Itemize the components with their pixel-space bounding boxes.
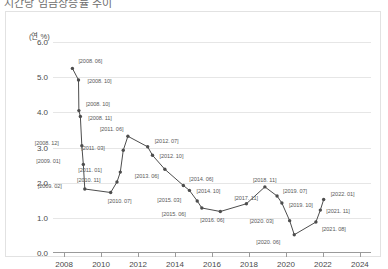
data-point-marker[interactable]: [322, 198, 325, 201]
data-point-label: [2020. 03]: [250, 219, 274, 225]
data-point-marker[interactable]: [263, 185, 266, 188]
data-point-label: [2013. 06]: [135, 174, 159, 180]
data-point-label: [2009. 02]: [38, 184, 62, 190]
x-axis-tick: [175, 253, 176, 257]
data-point-marker[interactable]: [200, 206, 203, 209]
data-point-label: [2015. 06]: [162, 212, 186, 218]
data-point-marker[interactable]: [115, 180, 118, 183]
data-point-marker[interactable]: [288, 219, 291, 222]
document-title: 시간당 임금상승률 추이: [4, 0, 113, 10]
y-axis-tick-label: 5.0: [37, 73, 48, 82]
data-point-label: [2008. 10]: [86, 102, 110, 108]
data-point-marker[interactable]: [119, 170, 122, 173]
x-axis-tick-label: 2024: [351, 260, 369, 269]
data-point-label: [2016. 06]: [200, 218, 224, 224]
x-axis-tick: [138, 253, 139, 257]
data-point-marker[interactable]: [293, 233, 296, 236]
y-axis-tick-label: 1.0: [37, 213, 48, 222]
x-axis-tick-label: 2012: [129, 260, 147, 269]
data-point-label: [2020. 06]: [256, 240, 280, 246]
data-point-marker[interactable]: [314, 220, 317, 223]
data-point-marker[interactable]: [163, 168, 166, 171]
data-point-label: [2014. 10]: [196, 189, 220, 195]
chart-plot-area: 0.01.02.03.04.05.06.0 200820102012201420…: [53, 42, 371, 253]
y-axis-tick-label: 6.0: [37, 38, 48, 47]
y-axis-tick-label: 4.0: [37, 108, 48, 117]
data-point-label: [2010. 11]: [77, 178, 100, 184]
data-point-marker[interactable]: [77, 109, 80, 112]
data-point-marker[interactable]: [109, 191, 112, 194]
x-axis-tick: [286, 253, 287, 257]
data-point-label: [2015. 03]: [157, 198, 181, 204]
x-axis-tick: [101, 253, 102, 257]
data-point-marker[interactable]: [71, 67, 74, 70]
data-point-marker[interactable]: [196, 199, 199, 202]
data-point-label: [2012. 07]: [155, 139, 179, 145]
x-axis-tick: [64, 253, 65, 257]
data-point-marker[interactable]: [83, 187, 86, 190]
data-point-marker[interactable]: [319, 208, 322, 211]
data-point-marker[interactable]: [122, 149, 125, 152]
series-line: [72, 68, 323, 234]
data-point-marker[interactable]: [219, 210, 222, 213]
y-axis-tick-label: 0.0: [37, 249, 48, 258]
x-axis-tick: [323, 253, 324, 257]
data-point-marker[interactable]: [82, 163, 85, 166]
data-point-label: [2018. 11]: [253, 178, 276, 184]
data-point-marker[interactable]: [126, 135, 129, 138]
screenshot-root: 시간당 임금상승률 추이 (연 %) 0.01.02.03.04.05.06.0…: [0, 0, 388, 269]
data-point-label: [2008. 06]: [78, 59, 102, 65]
data-point-marker[interactable]: [245, 202, 248, 205]
x-axis-tick-label: 2010: [92, 260, 110, 269]
data-point-label: [2011. 06]: [100, 127, 123, 133]
data-point-marker[interactable]: [280, 201, 283, 204]
x-axis-tick: [212, 253, 213, 257]
x-axis-tick-label: 2008: [55, 260, 73, 269]
data-point-label: [2010. 07]: [108, 199, 132, 205]
x-axis-tick: [249, 253, 250, 257]
data-point-marker[interactable]: [146, 145, 149, 148]
data-point-marker[interactable]: [182, 184, 185, 187]
data-point-label: [2014. 06]: [189, 177, 213, 183]
data-point-label: [2019. 07]: [283, 189, 307, 195]
data-point-label: [2019. 10]: [289, 203, 313, 209]
data-point-label: [2008. 12]: [35, 141, 59, 147]
x-axis-tick-label: 2014: [166, 260, 184, 269]
x-axis-tick-label: 2022: [314, 260, 332, 269]
x-axis-tick-label: 2020: [277, 260, 295, 269]
x-axis-tick: [360, 253, 361, 257]
data-point-label: [2021. 08]: [322, 227, 346, 233]
data-point-label: [2008. 10]: [88, 79, 112, 85]
data-point-label: [2011. 03]: [81, 146, 104, 152]
chart-card: (연 %) 0.01.02.03.04.05.06.0 200820102012…: [5, 11, 381, 257]
data-point-marker[interactable]: [151, 154, 154, 157]
data-point-label: [2009. 01]: [36, 159, 60, 165]
data-point-label: [2011. 01]: [78, 168, 101, 174]
x-axis-tick-label: 2016: [203, 260, 221, 269]
data-point-label: [2022. 01]: [331, 192, 355, 198]
data-point-label: [2008. 11]: [88, 116, 111, 122]
data-point-marker[interactable]: [275, 194, 278, 197]
x-axis-tick-label: 2018: [240, 260, 258, 269]
data-point-label: [2017. 11]: [234, 196, 257, 202]
data-point-marker[interactable]: [77, 78, 80, 81]
data-point-label: [2012. 10]: [159, 154, 183, 160]
data-point-marker[interactable]: [188, 189, 191, 192]
data-point-marker[interactable]: [79, 115, 82, 118]
data-point-label: [2021. 11]: [326, 209, 349, 215]
